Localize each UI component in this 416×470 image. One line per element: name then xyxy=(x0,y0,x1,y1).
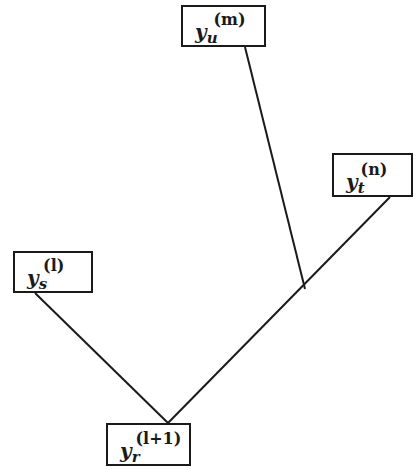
node-y-t-n: yt(n) xyxy=(332,153,413,197)
node-label: yr(l+1) xyxy=(120,441,185,461)
node-y-u-m: yu(m) xyxy=(181,5,266,47)
node-y-r-l-plus-1: yr(l+1) xyxy=(106,423,191,466)
node-label: ys(l) xyxy=(27,268,68,288)
node-label: yt(n) xyxy=(346,172,391,192)
node-label: yu(m) xyxy=(195,22,250,42)
edge-t-to-r xyxy=(168,197,390,423)
node-y-s-l: ys(l) xyxy=(13,251,93,293)
edge-s-to-r xyxy=(35,293,168,423)
edge-u-to-junction xyxy=(245,47,305,289)
tree-edges xyxy=(0,0,416,470)
